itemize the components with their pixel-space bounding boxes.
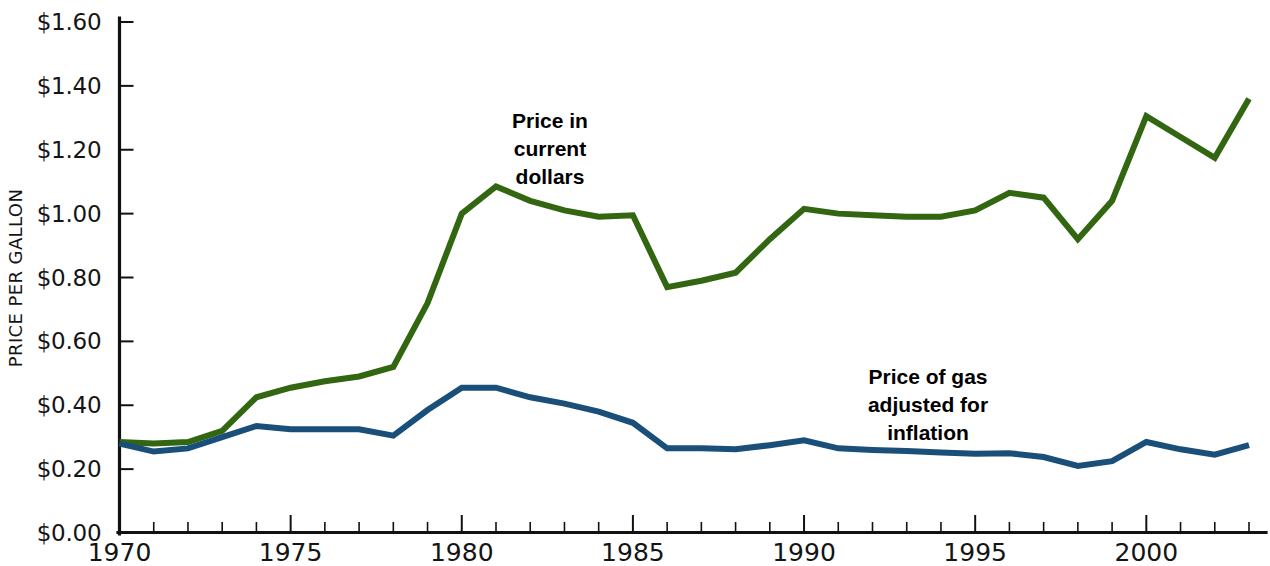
x-tick-label: 2000 bbox=[1115, 538, 1179, 566]
y-axis-title: PRICE PER GALLON bbox=[5, 189, 26, 368]
y-axis-ticks bbox=[120, 22, 134, 469]
annotation-line: inflation bbox=[887, 421, 969, 444]
x-tick-label: 1985 bbox=[601, 538, 665, 566]
annotation-line: Price of gas bbox=[868, 365, 987, 388]
y-tick-label: $1.40 bbox=[37, 73, 102, 99]
x-tick-label: 1970 bbox=[88, 538, 152, 566]
annotation-line: adjusted for bbox=[868, 393, 988, 416]
series-lines bbox=[120, 99, 1250, 466]
y-tick-label: $1.60 bbox=[37, 9, 102, 35]
y-axis-group: $0.00$0.20$0.40$0.60$0.80$1.00$1.20$1.40… bbox=[5, 9, 134, 546]
y-axis-tick-labels: $0.00$0.20$0.40$0.60$0.80$1.00$1.20$1.40… bbox=[37, 9, 102, 546]
gas-price-line-chart: $0.00$0.20$0.40$0.60$0.80$1.00$1.20$1.40… bbox=[0, 0, 1270, 566]
annotation-line: current bbox=[514, 137, 586, 160]
x-tick-label: 1975 bbox=[259, 538, 323, 566]
x-tick-label: 1980 bbox=[430, 538, 494, 566]
x-axis-group: 1970197519801985199019952000 bbox=[88, 515, 1266, 566]
annotation-current-dollars: Price incurrentdollars bbox=[512, 109, 588, 188]
y-tick-label: $0.20 bbox=[37, 456, 102, 482]
x-axis-major-ticks bbox=[120, 515, 1147, 533]
series-line-inflation-adjusted bbox=[120, 388, 1250, 466]
chart-canvas: $0.00$0.20$0.40$0.60$0.80$1.00$1.20$1.40… bbox=[0, 0, 1270, 566]
x-tick-label: 1990 bbox=[772, 538, 836, 566]
x-axis-tick-labels: 1970197519801985199019952000 bbox=[88, 538, 1178, 566]
y-tick-label: $0.40 bbox=[37, 392, 102, 418]
chart-annotations: Price incurrentdollarsPrice of gasadjust… bbox=[512, 109, 988, 444]
series-line-current-dollars bbox=[120, 99, 1250, 444]
y-tick-label: $1.00 bbox=[37, 201, 102, 227]
annotation-inflation-adjusted: Price of gasadjusted forinflation bbox=[868, 365, 988, 444]
y-tick-label: $0.60 bbox=[37, 328, 102, 354]
x-tick-label: 1995 bbox=[943, 538, 1007, 566]
annotation-line: dollars bbox=[516, 165, 585, 188]
y-tick-label: $1.20 bbox=[37, 137, 102, 163]
annotation-line: Price in bbox=[512, 109, 588, 132]
y-tick-label: $0.80 bbox=[37, 265, 102, 291]
